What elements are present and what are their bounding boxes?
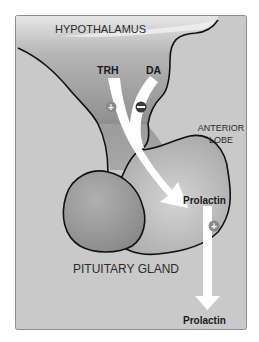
anterior-lobe-label-line2: LOBE (209, 135, 233, 145)
prolactin-output-label: Prolactin (183, 315, 226, 326)
trh-label: TRH (97, 64, 119, 76)
anterior-lobe-label-line1: ANTERIOR (198, 123, 245, 133)
prolactin-regulation-diagram: + + HYPOTHALAMUS TRH DA ANTERIOR LOBE Pr… (0, 0, 259, 342)
pituitary-gland-label: PITUITARY GLAND (73, 262, 179, 276)
da-minus-badge (136, 102, 147, 113)
da-label: DA (146, 64, 162, 76)
svg-text:+: + (211, 221, 217, 232)
hypothalamus-label: HYPOTHALAMUS (55, 23, 146, 35)
prolactin-plus-badge: + (209, 221, 220, 232)
trh-plus-badge: + (106, 102, 117, 113)
prolactin-gland-label: Prolactin (183, 195, 226, 206)
svg-text:+: + (108, 102, 114, 113)
